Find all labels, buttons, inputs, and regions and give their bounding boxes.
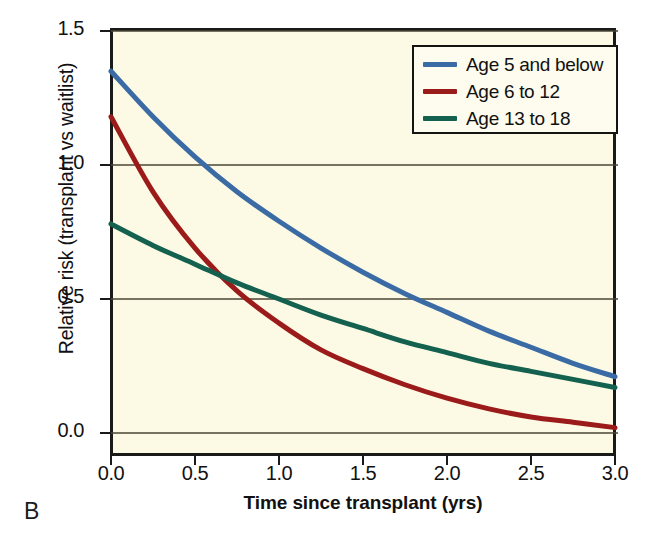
legend-label: Age 5 and below (466, 54, 603, 76)
x-tick-label: 1.5 (333, 462, 393, 485)
x-axis-title: Time since transplant (yrs) (110, 492, 616, 514)
y-tick-label: 1.0 (28, 151, 84, 174)
x-tick-label: 1.0 (249, 462, 309, 485)
legend-item[interactable]: Age 13 to 18 (414, 105, 616, 132)
legend-item[interactable]: Age 5 and below (414, 51, 616, 78)
legend-line-swatch-icon (423, 116, 457, 121)
legend-line-swatch-icon (423, 89, 457, 94)
legend-line-swatch-icon (423, 62, 457, 67)
y-tick-label: 0.5 (28, 285, 84, 308)
legend-label: Age 6 to 12 (466, 81, 560, 103)
legend-label: Age 13 to 18 (466, 108, 570, 130)
legend: Age 5 and belowAge 6 to 12Age 13 to 18 (412, 45, 618, 134)
legend-item[interactable]: Age 6 to 12 (414, 78, 616, 105)
y-axis-title: Relative risk (transplant vs waitlist) (55, 0, 78, 419)
x-tick-label: 0.5 (165, 462, 225, 485)
figure-panel: Relative risk (transplant vs waitlist) 0… (0, 0, 660, 550)
x-tick-label: 2.0 (417, 462, 477, 485)
x-tick-label: 2.5 (501, 462, 561, 485)
x-tick-label: 0.0 (81, 462, 141, 485)
y-tick-label: 1.5 (28, 17, 84, 40)
y-tick-label: 0.0 (28, 419, 84, 442)
x-tick-label: 3.0 (585, 462, 645, 485)
panel-label: B (24, 498, 39, 525)
